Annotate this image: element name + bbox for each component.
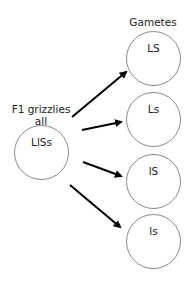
arrow-to-lS <box>83 162 121 176</box>
parent-label: F1 grizzlies all <box>0 103 82 127</box>
parent-label-line1: F1 grizzlies <box>0 103 82 115</box>
gamete-label: ls <box>127 225 180 237</box>
parent-genotype: LlSs <box>15 136 68 148</box>
gamete-circle-lS: lS <box>126 154 181 209</box>
gamete-label: LS <box>127 42 180 54</box>
parent-circle: LlSs <box>14 125 69 180</box>
gamete-label: lS <box>127 165 180 177</box>
gamete-circle-Ls: Ls <box>126 92 181 147</box>
gamete-circle-LS: LS <box>126 31 181 86</box>
gametes-heading: Gametes <box>126 16 180 28</box>
arrow-to-Ls <box>82 122 121 130</box>
arrow-to-ls <box>70 185 120 227</box>
gamete-circle-ls: ls <box>126 214 181 269</box>
gamete-label: Ls <box>127 103 180 115</box>
